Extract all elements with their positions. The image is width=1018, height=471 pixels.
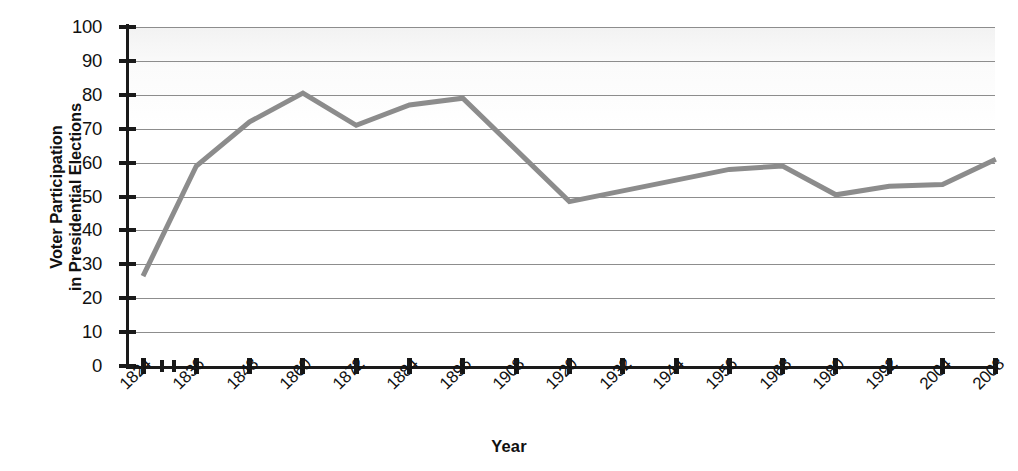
x-tick-label-2004: 2004: [916, 354, 956, 394]
y-tick-mark-90: [119, 59, 136, 63]
x-tick-label-1992: 1992: [862, 354, 902, 394]
y-tick-mark-80: [119, 93, 136, 97]
y-tick-mark-70: [119, 127, 136, 131]
x-axis-title: Year: [0, 437, 1018, 456]
y-tick-mark-10: [119, 330, 136, 334]
x-tick-label-1968: 1968: [756, 354, 796, 394]
x-tick-mark-minor-1: [172, 360, 176, 372]
x-tick-label-1980: 1980: [809, 354, 849, 394]
x-tick-label-1932: 1932: [596, 354, 636, 394]
y-tick-mark-20: [119, 296, 136, 300]
x-tick-label-1956: 1956: [702, 354, 742, 394]
x-tick-label-1872: 1872: [329, 354, 369, 394]
x-tick-label-1908: 1908: [489, 354, 529, 394]
x-tick-label-1944: 1944: [649, 354, 689, 394]
y-tick-mark-40: [119, 228, 136, 232]
x-tick-label-1848: 1848: [223, 354, 263, 394]
chart-figure: Voter Participation in Presidential Elec…: [0, 0, 1018, 471]
x-tick-label-1824: 1824: [116, 354, 156, 394]
x-tick-label-2008: 2008: [969, 354, 1009, 394]
y-tick-mark-60: [119, 161, 136, 165]
tick-layer: 1824183618481860187218841896190819201932…: [0, 0, 1018, 471]
x-tick-label-1860: 1860: [276, 354, 316, 394]
y-tick-mark-100: [119, 25, 136, 29]
x-tick-label-1884: 1884: [383, 354, 423, 394]
x-tick-label-1920: 1920: [542, 354, 582, 394]
x-tick-mark-minor-0: [160, 360, 164, 372]
y-tick-mark-50: [119, 195, 136, 199]
x-tick-label-1896: 1896: [436, 354, 476, 394]
y-tick-mark-30: [119, 262, 136, 266]
